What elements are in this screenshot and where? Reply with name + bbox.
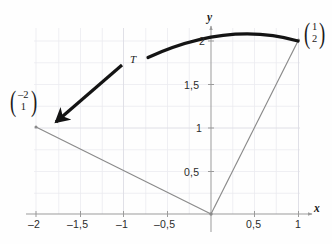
axis-lines [26, 26, 312, 232]
right-paren: ) [30, 89, 36, 112]
vector-transformation-figure: –2 –1,5 –1 –0,5 0,5 1 0,5 1 1,5 2 x y T … [0, 0, 332, 244]
image-vector-components: –2 1 [18, 89, 29, 112]
image-vector-label: ( –2 1 ) [8, 89, 39, 112]
x-tick-label: –1 [116, 218, 128, 230]
component-bottom: 2 [312, 33, 317, 44]
component-bottom: 1 [21, 101, 26, 112]
x-tick-label: 1 [295, 218, 301, 230]
rotation-arc [148, 34, 298, 58]
left-paren: ( [304, 21, 310, 44]
y-axis-label: y [207, 11, 212, 23]
grid-unit-lines [34, 28, 300, 214]
x-tick-label: –1,5 [67, 218, 88, 230]
y-tick-label: 2 [199, 35, 205, 47]
x-tick-label: 0,5 [246, 218, 261, 230]
source-vector-label: ( 1 2 ) [302, 21, 327, 44]
component-top: –2 [18, 89, 29, 100]
y-tick-label: 0,5 [184, 166, 199, 178]
x-tick-label: –2 [28, 218, 40, 230]
left-paren: ( [10, 89, 16, 112]
y-tick-label: 1 [196, 122, 202, 134]
source-vector-components: 1 2 [312, 21, 317, 44]
x-axis-label: x [314, 202, 320, 214]
plot-canvas [0, 0, 332, 244]
origin-dot [209, 212, 212, 215]
component-top: 1 [312, 21, 317, 32]
map-label-t: T [130, 53, 136, 65]
x-tick-label: –0,5 [154, 218, 175, 230]
right-paren: ) [319, 21, 325, 44]
y-tick-label: 1,5 [184, 79, 199, 91]
transform-arrow [56, 65, 122, 122]
image-vector-dot [35, 126, 38, 129]
